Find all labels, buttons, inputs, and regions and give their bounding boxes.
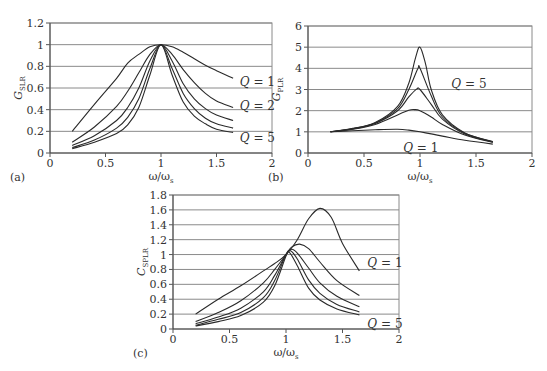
x-tick-label: 0.5 [355, 157, 373, 170]
y-tick-label: 4 [295, 62, 302, 75]
x-tick-label: 1 [158, 157, 165, 170]
y-tick-label: 0.8 [150, 263, 168, 276]
y-tick-label: 0.6 [150, 278, 168, 291]
x-tick-label: 2 [269, 157, 276, 170]
x-tick-label: 1.5 [334, 333, 352, 346]
series-line [196, 208, 360, 314]
y-tick-label: 0.2 [150, 308, 168, 321]
y-tick-label: 0.8 [27, 60, 45, 73]
y-tick-label: 0 [160, 323, 167, 336]
x-tick-label: 2 [529, 157, 536, 170]
x-tick-label: 2 [396, 333, 403, 346]
panel-label: (a) [10, 171, 25, 184]
panel-label: (b) [268, 171, 284, 184]
x-tick-label: 0 [170, 333, 177, 346]
x-tick-label: 0 [305, 157, 312, 170]
series-line [196, 249, 360, 324]
chart-a: 00.20.40.60.811.200.511.52Q = 1Q = 2Q = … [10, 17, 276, 185]
x-tick-label: 0.5 [97, 157, 115, 170]
x-axis-label: ω/ωs [407, 170, 433, 185]
q-annotation: Q = 1 [240, 75, 275, 89]
x-tick-label: 1.5 [208, 157, 226, 170]
q-annotation: Q = 1 [403, 141, 438, 155]
y-tick-label: 1.4 [150, 219, 168, 232]
y-tick-label: 1.8 [150, 189, 168, 202]
q-annotation: Q = 5 [367, 317, 402, 331]
x-axis-label: ω/ωs [273, 346, 299, 361]
series-line [196, 244, 360, 322]
series-line [330, 110, 492, 143]
chart-canvas: 00.20.40.60.811.200.511.52Q = 1Q = 2Q = … [0, 0, 547, 371]
chart-c: 00.20.40.60.811.21.41.61.800.511.52Q = 1… [133, 189, 403, 361]
x-tick-label: 0.5 [221, 333, 239, 346]
panel-label: (c) [133, 347, 148, 360]
x-tick-label: 1.5 [467, 157, 485, 170]
x-tick-label: 1 [283, 333, 290, 346]
x-tick-label: 1 [417, 157, 424, 170]
y-tick-label: 1.6 [150, 204, 168, 217]
y-axis-label: CSPLR [135, 247, 150, 276]
y-tick-label: 1.2 [150, 234, 168, 247]
y-tick-label: 1 [295, 126, 302, 139]
y-tick-label: 0 [295, 147, 302, 160]
y-tick-label: 1.2 [27, 17, 45, 30]
y-tick-label: 0.6 [27, 82, 45, 95]
y-axis-label: GSLR [12, 76, 27, 100]
y-tick-label: 0 [37, 147, 44, 160]
q-annotation: Q = 1 [367, 256, 402, 270]
y-tick-label: 0.2 [27, 125, 45, 138]
series-line [72, 45, 233, 143]
q-annotation: Q = 5 [451, 77, 486, 91]
plot-frame [173, 195, 399, 329]
y-tick-label: 6 [295, 20, 302, 33]
y-tick-label: 1 [160, 249, 167, 262]
x-tick-label: 0 [47, 157, 54, 170]
series-line [330, 88, 492, 142]
y-tick-label: 5 [295, 41, 302, 54]
y-tick-label: 0.4 [27, 104, 45, 117]
q-annotation: Q = 5 [240, 131, 275, 145]
y-tick-label: 2 [295, 105, 302, 118]
y-tick-label: 0.4 [150, 293, 168, 306]
series-line [196, 251, 360, 326]
chart-b: 012345600.511.52Q = 5Q = 1ω/ωsGPLR(b) [268, 20, 536, 185]
y-tick-label: 3 [295, 84, 302, 97]
y-tick-label: 1 [37, 39, 44, 52]
x-axis-label: ω/ωs [148, 170, 174, 185]
